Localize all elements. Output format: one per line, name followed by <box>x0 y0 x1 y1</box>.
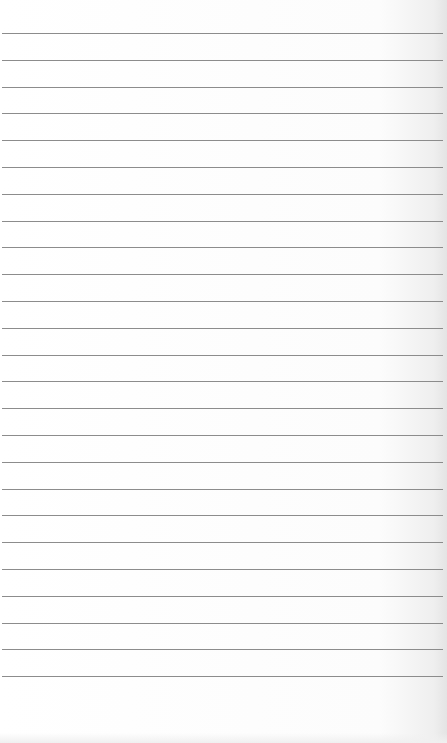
ruled-line <box>2 515 443 516</box>
ruled-line <box>2 676 443 677</box>
ruled-line <box>2 355 443 356</box>
ruled-line <box>2 247 443 248</box>
ruled-line <box>2 328 443 329</box>
paper-bottom-edge <box>0 733 447 743</box>
ruled-line <box>2 435 443 436</box>
ruled-line <box>2 408 443 409</box>
ruled-line <box>2 221 443 222</box>
ruled-line <box>2 649 443 650</box>
ruled-line <box>2 489 443 490</box>
ruled-line <box>2 60 443 61</box>
ruled-line <box>2 623 443 624</box>
ruled-line <box>2 274 443 275</box>
ruled-line <box>2 87 443 88</box>
ruled-line <box>2 167 443 168</box>
ruled-line <box>2 194 443 195</box>
ruled-line <box>2 301 443 302</box>
ruled-line <box>2 33 443 34</box>
ruled-line <box>2 542 443 543</box>
lined-paper-sheet <box>0 0 447 743</box>
ruled-line <box>2 596 443 597</box>
ruled-line <box>2 140 443 141</box>
ruled-line <box>2 569 443 570</box>
ruled-line <box>2 462 443 463</box>
ruled-line <box>2 381 443 382</box>
ruled-line <box>2 113 443 114</box>
faint-bleed-through-text <box>0 0 447 14</box>
